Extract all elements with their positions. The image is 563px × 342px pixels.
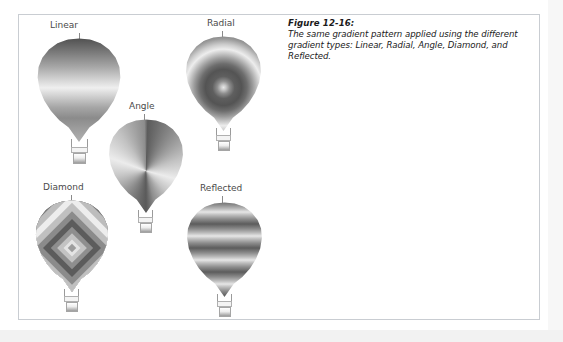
balloon-envelope-angle: [104, 119, 188, 213]
balloon-basket: [73, 153, 86, 164]
balloon-envelope-diamond: [31, 200, 113, 292]
gradient-fill-reflected: [182, 202, 267, 297]
balloon-basket: [140, 223, 152, 233]
balloon-basket: [66, 302, 78, 312]
gradient-fill-diamond: [31, 200, 113, 292]
figure-page: Figure 12-16: The same gradient pattern …: [0, 0, 563, 342]
gradient-fill-radial: [181, 36, 266, 131]
balloon-envelope-radial: [181, 36, 266, 131]
balloon-label-angle: Angle: [129, 101, 155, 111]
balloon-reflected: [182, 202, 267, 297]
balloon-label-radial: Radial: [207, 18, 235, 28]
balloon-basket: [219, 307, 231, 317]
gradient-fill-angle: [104, 119, 188, 213]
balloon-angle: [104, 119, 188, 213]
figure-caption-text: The same gradient pattern applied using …: [288, 29, 524, 63]
page-edge-shade-bottom: [0, 330, 563, 342]
balloon-basket: [218, 141, 230, 151]
balloon-label-diamond: Diamond: [43, 182, 84, 192]
balloon-diamond: [31, 200, 113, 292]
balloon-label-reflected: Reflected: [200, 183, 242, 193]
figure-caption: Figure 12-16: The same gradient pattern …: [288, 18, 524, 63]
figure-number: Figure 12-16:: [288, 18, 524, 29]
balloon-label-linear: Linear: [50, 20, 78, 30]
balloon-envelope-reflected: [182, 202, 267, 297]
balloon-radial: [181, 36, 266, 131]
page-edge-shade-right: [548, 0, 563, 342]
